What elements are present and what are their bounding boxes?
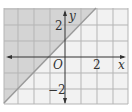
y-tick-neg2: −2: [48, 83, 66, 97]
y-tick-2: 2: [55, 19, 63, 33]
origin-label: O: [53, 58, 63, 72]
y-axis-label: y: [68, 9, 76, 23]
inequality-graph: y x O 2 2 −2: [0, 0, 132, 112]
x-axis-label: x: [118, 58, 125, 72]
x-tick-2: 2: [93, 58, 101, 72]
